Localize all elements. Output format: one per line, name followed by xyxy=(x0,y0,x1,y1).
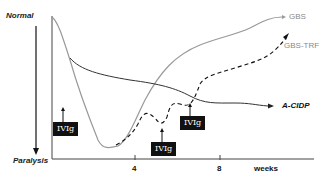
arrow-up-icon xyxy=(61,107,65,111)
arrow-right-icon xyxy=(268,104,274,109)
ivig-label-2: IVIg xyxy=(151,142,176,156)
x-tick-label-4: 4 xyxy=(132,164,136,173)
x-tick-label-8: 8 xyxy=(217,164,221,173)
legend-a-cidp: A-CIDP xyxy=(282,101,310,110)
y-label-normal: Normal xyxy=(6,11,34,20)
arrow-right-icon xyxy=(282,15,286,19)
arrow-up-icon xyxy=(160,128,164,132)
ivig-label-1: IVIg xyxy=(53,122,78,136)
legend-gbs: GBS xyxy=(289,12,306,21)
arrow-down-icon xyxy=(33,148,39,155)
y-label-paralysis: Paralysis xyxy=(13,156,48,165)
ivig-label-3: IVIg xyxy=(180,116,205,130)
legend-gbs-trf: GBS-TRF xyxy=(284,41,319,50)
arrow-up-right-icon xyxy=(283,33,289,40)
x-axis-label: weeks xyxy=(254,164,278,173)
series-gbs-line xyxy=(52,17,282,148)
